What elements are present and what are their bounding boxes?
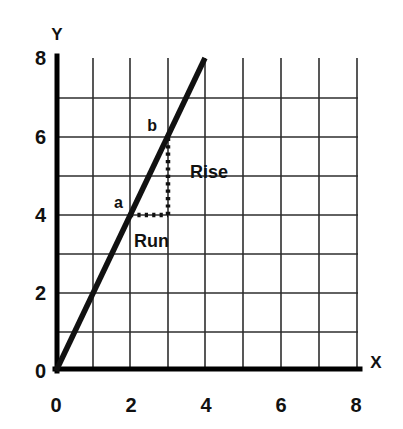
y-tick-label-4: 4 bbox=[35, 204, 47, 226]
point-label-a: a bbox=[114, 194, 123, 211]
run-label: Run bbox=[134, 231, 169, 251]
x-tick-label-6: 6 bbox=[275, 394, 286, 416]
y-tick-label-8: 8 bbox=[35, 47, 46, 69]
x-tick-label-8: 8 bbox=[350, 394, 361, 416]
x-tick-label-2: 2 bbox=[125, 394, 136, 416]
x-axis-title: X bbox=[370, 353, 382, 372]
y-tick-label-2: 2 bbox=[35, 282, 46, 304]
y-tick-label-0: 0 bbox=[35, 360, 46, 382]
x-tick-label-4: 4 bbox=[200, 394, 212, 416]
graph-canvas: 8 6 4 2 0 0 2 4 6 8 Y X b a Rise Run bbox=[0, 0, 403, 429]
point-label-b: b bbox=[147, 117, 157, 134]
y-axis-title: Y bbox=[51, 25, 63, 44]
x-tick-label-0: 0 bbox=[50, 394, 61, 416]
y-tick-label-6: 6 bbox=[35, 126, 46, 148]
slope-graph-figure: 8 6 4 2 0 0 2 4 6 8 Y X b a Rise Run bbox=[0, 0, 403, 429]
rise-label: Rise bbox=[190, 162, 228, 182]
